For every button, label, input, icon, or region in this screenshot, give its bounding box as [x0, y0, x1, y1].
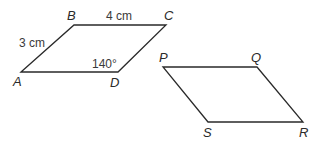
- vertex-label-s: S: [203, 125, 212, 140]
- vertex-label-a: A: [12, 74, 22, 89]
- vertex-label-d: D: [110, 75, 119, 90]
- parallelogram-pqrs: [163, 67, 303, 122]
- side-length-bc: 4 cm: [106, 9, 132, 23]
- angle-d-measure: 140°: [92, 57, 117, 71]
- vertex-label-p: P: [159, 50, 168, 65]
- diagram-canvas: B C A D 4 cm 3 cm 140° P Q S R: [0, 0, 319, 146]
- vertex-label-b: B: [67, 8, 76, 23]
- vertex-label-q: Q: [251, 50, 261, 65]
- vertex-label-c: C: [164, 8, 174, 23]
- vertex-label-r: R: [299, 125, 308, 140]
- side-length-ab: 3 cm: [19, 36, 45, 50]
